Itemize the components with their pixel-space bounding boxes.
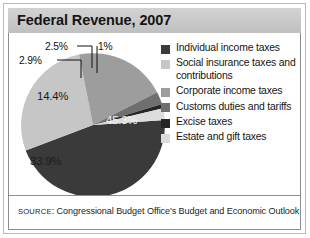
legend-item-label: Estate and gift taxes bbox=[176, 131, 266, 143]
figure-title-band: Federal Revenue, 2007 bbox=[8, 8, 301, 33]
legend-swatch-icon bbox=[161, 103, 170, 112]
chart-legend: Individual income taxes Social insurance… bbox=[161, 42, 301, 147]
callout-estate-and-gift-taxes: 2.5% bbox=[45, 41, 68, 52]
slice-label-social-insurance-taxes: 33.9% bbox=[30, 155, 61, 167]
source-text: : Congressional Budget Office's Budget a… bbox=[52, 206, 300, 216]
legend-item-customs-duties-and-tariffs[interactable]: Customs duties and tariffs bbox=[161, 101, 301, 113]
source-note: SOURCE: Congressional Budget Office's Bu… bbox=[18, 206, 299, 216]
legend-item-label: Individual income taxes bbox=[176, 42, 280, 54]
legend-item-label: Excise taxes bbox=[176, 116, 232, 128]
source-panel: SOURCE: Congressional Budget Office's Bu… bbox=[8, 196, 301, 230]
legend-swatch-icon bbox=[161, 45, 170, 54]
legend-swatch-icon bbox=[161, 119, 170, 128]
legend-item-estate-and-gift-taxes[interactable]: Estate and gift taxes bbox=[161, 131, 301, 143]
legend-item-label: Social insurance taxes and contributions bbox=[176, 57, 301, 82]
callout-excise-taxes: 1% bbox=[98, 41, 112, 52]
callout-customs-duties-and-tariffs: 2.9% bbox=[19, 55, 42, 66]
legend-swatch-icon bbox=[161, 134, 170, 143]
legend-swatch-icon bbox=[161, 60, 170, 69]
legend-item-corporate-income-taxes[interactable]: Corporate income taxes bbox=[161, 85, 301, 97]
figure-federal-revenue-2007: Federal Revenue, 2007 bbox=[0, 0, 310, 238]
slice-label-individual-income-taxes: 45.3% bbox=[106, 114, 137, 126]
legend-swatch-icon bbox=[161, 88, 170, 97]
legend-item-excise-taxes[interactable]: Excise taxes bbox=[161, 116, 301, 128]
slice-label-corporate-income-taxes: 14.4% bbox=[37, 90, 68, 102]
chart-panel: 2.5% 2.9% 1% 45.3% 33.9% 14.4% Individua… bbox=[8, 33, 301, 196]
page-title: Federal Revenue, 2007 bbox=[17, 12, 171, 28]
source-label: SOURCE bbox=[18, 207, 52, 216]
legend-item-social-insurance-taxes[interactable]: Social insurance taxes and contributions bbox=[161, 57, 301, 82]
legend-item-label: Corporate income taxes bbox=[176, 85, 282, 97]
legend-item-label: Customs duties and tariffs bbox=[176, 101, 291, 113]
legend-item-individual-income-taxes[interactable]: Individual income taxes bbox=[161, 42, 301, 54]
